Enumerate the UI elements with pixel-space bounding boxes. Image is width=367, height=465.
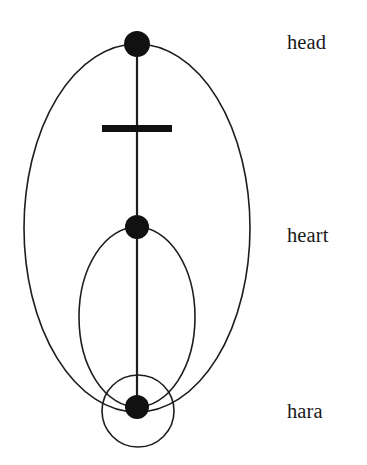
cross-bar bbox=[102, 125, 172, 132]
head-heart-hara-diagram: head heart hara bbox=[0, 0, 367, 465]
diagram-canvas: head heart hara bbox=[0, 0, 367, 465]
head-label: head bbox=[287, 31, 326, 53]
hara-node-dot bbox=[125, 395, 149, 419]
head-node-dot bbox=[124, 31, 150, 57]
heart-label: heart bbox=[287, 224, 329, 246]
hara-label: hara bbox=[287, 400, 323, 422]
heart-node-dot bbox=[125, 215, 149, 239]
